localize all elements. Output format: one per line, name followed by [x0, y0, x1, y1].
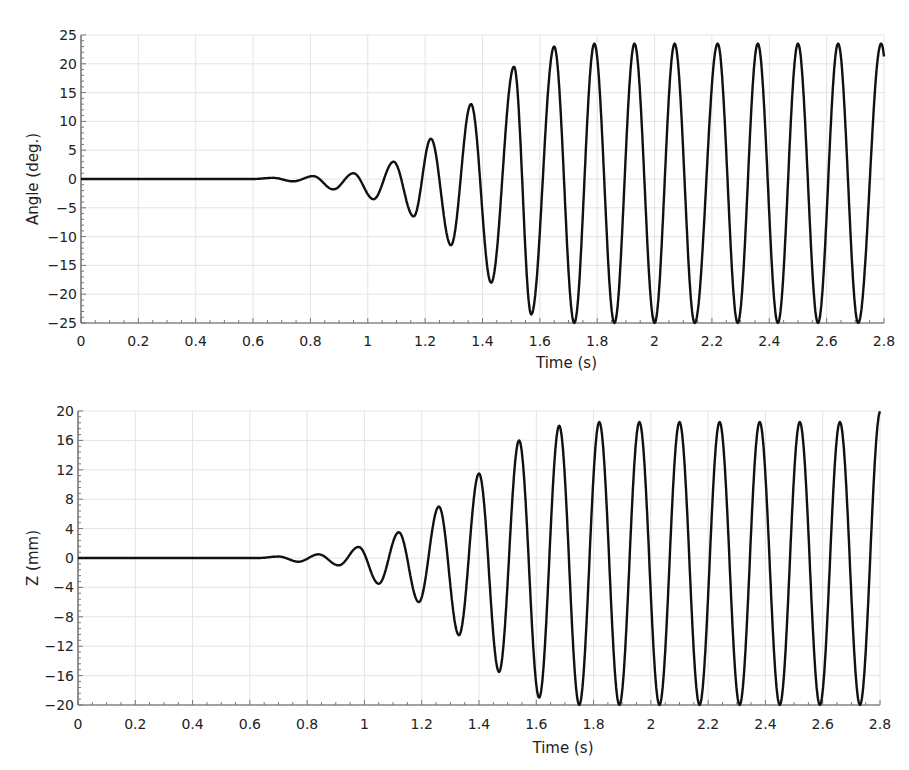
y-tick-label: 20 [59, 56, 77, 72]
x-tick-label: 2.2 [697, 716, 719, 732]
x-tick-label: 1.2 [411, 716, 433, 732]
y-tick-label: −4 [53, 579, 74, 595]
x-tick-label: 2.6 [812, 716, 834, 732]
angle-y-tick-labels: 2520151050−5−10−15−20−25 [47, 27, 77, 331]
x-tick-label: 0.2 [127, 333, 149, 349]
x-tick-label: 1.6 [529, 333, 551, 349]
x-tick-label: 1.4 [471, 333, 493, 349]
x-tick-label: 2 [646, 716, 655, 732]
y-tick-label: −8 [53, 609, 74, 625]
x-tick-label: 1.8 [586, 333, 608, 349]
y-tick-label: 15 [59, 85, 77, 101]
x-tick-label: 2.8 [869, 716, 891, 732]
y-tick-label: −20 [47, 286, 77, 302]
z-displacement-chart: 00.20.40.60.811.21.41.61.822.22.42.62.82… [24, 403, 891, 757]
x-tick-label: 0 [77, 333, 86, 349]
y-tick-label: 0 [68, 171, 77, 187]
x-tick-label: 0.8 [299, 333, 321, 349]
y-tick-label: 8 [65, 491, 74, 507]
x-tick-label: 2.2 [701, 333, 723, 349]
angle-chart: 00.20.40.60.811.21.41.61.822.22.42.62.82… [24, 27, 895, 372]
y-tick-label: −15 [47, 257, 77, 273]
x-tick-label: 1.8 [582, 716, 604, 732]
x-tick-label: 0.8 [296, 716, 318, 732]
x-tick-label: 0.2 [124, 716, 146, 732]
x-tick-label: 1 [363, 333, 372, 349]
y-tick-label: −10 [47, 229, 77, 245]
y-tick-label: −16 [44, 668, 74, 684]
x-tick-label: 0.4 [181, 716, 203, 732]
x-tick-label: 1.2 [414, 333, 436, 349]
x-tick-label: 0.4 [185, 333, 207, 349]
x-tick-label: 1 [360, 716, 369, 732]
y-tick-label: −5 [56, 200, 77, 216]
x-tick-label: 1.4 [468, 716, 490, 732]
y-tick-label: 0 [65, 550, 74, 566]
y-tick-label: −12 [44, 638, 74, 654]
x-tick-label: 0 [74, 716, 83, 732]
angle-y-axis-title: Angle (deg.) [24, 133, 42, 225]
y-tick-label: 16 [56, 432, 74, 448]
x-tick-label: 2.4 [754, 716, 776, 732]
x-tick-label: 0.6 [239, 716, 261, 732]
y-tick-label: 20 [56, 403, 74, 419]
x-tick-label: 1.6 [525, 716, 547, 732]
x-tick-label: 2.6 [816, 333, 838, 349]
angle-x-axis-title: Time (s) [535, 354, 597, 372]
x-tick-label: 2.4 [758, 333, 780, 349]
angle-x-tick-labels: 00.20.40.60.811.21.41.61.822.22.42.62.8 [77, 333, 896, 349]
x-tick-label: 2.8 [873, 333, 895, 349]
z-y-axis-title: Z (mm) [24, 530, 42, 586]
y-tick-label: −25 [47, 315, 77, 331]
z-y-tick-labels: 201612840−4−8−12−16−20 [44, 403, 74, 713]
y-tick-label: −20 [44, 697, 74, 713]
y-tick-label: 12 [56, 462, 74, 478]
z-x-tick-labels: 00.20.40.60.811.21.41.61.822.22.42.62.8 [74, 716, 892, 732]
z-x-axis-title: Time (s) [532, 739, 594, 757]
x-tick-label: 2 [650, 333, 659, 349]
y-tick-label: 10 [59, 113, 77, 129]
y-tick-label: 25 [59, 27, 77, 43]
y-tick-label: 4 [65, 521, 74, 537]
y-tick-label: 5 [68, 142, 77, 158]
figure: 00.20.40.60.811.21.41.61.822.22.42.62.82… [0, 0, 909, 770]
x-tick-label: 0.6 [242, 333, 264, 349]
